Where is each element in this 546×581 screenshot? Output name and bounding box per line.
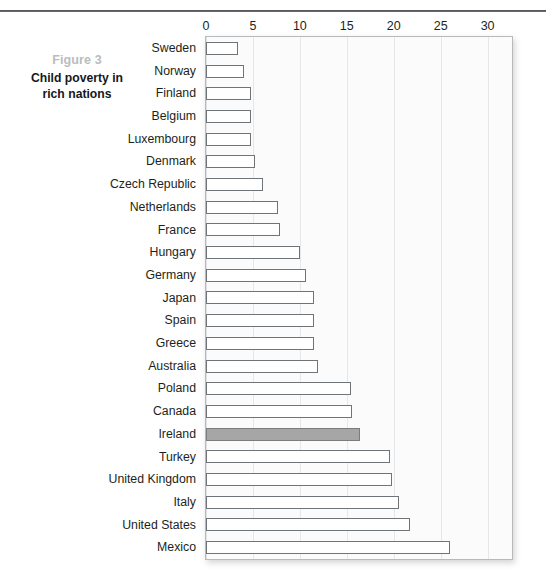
x-tick-label-30: 30 <box>468 19 508 33</box>
category-label-australia: Australia <box>16 355 196 378</box>
bar-row: Sweden <box>0 37 546 60</box>
x-tick-label-10: 10 <box>280 19 320 33</box>
bar-canada <box>206 405 352 418</box>
bar-belgium <box>206 110 251 123</box>
bar-row: Czech Republic <box>0 173 546 196</box>
category-label-belgium: Belgium <box>16 105 196 128</box>
category-label-denmark: Denmark <box>16 150 196 173</box>
bar-row: Canada <box>0 400 546 423</box>
bar-row: Italy <box>0 491 546 514</box>
bar-united-kingdom <box>206 473 392 486</box>
bar-finland <box>206 87 251 100</box>
bar-row: United States <box>0 514 546 537</box>
x-tick-label-15: 15 <box>327 19 367 33</box>
bar-row: United Kingdom <box>0 468 546 491</box>
category-label-mexico: Mexico <box>16 536 196 559</box>
x-tick-label-25: 25 <box>421 19 461 33</box>
bar-spain <box>206 314 314 327</box>
bar-sweden <box>206 42 238 55</box>
category-label-turkey: Turkey <box>16 446 196 469</box>
bar-row: Hungary <box>0 241 546 264</box>
bar-row: Australia <box>0 355 546 378</box>
category-label-hungary: Hungary <box>16 241 196 264</box>
bar-japan <box>206 291 314 304</box>
bar-greece <box>206 337 314 350</box>
bar-hungary <box>206 246 300 259</box>
bar-poland <box>206 382 351 395</box>
bar-united-states <box>206 518 410 531</box>
bar-france <box>206 223 280 236</box>
category-label-norway: Norway <box>16 60 196 83</box>
bar-row: Belgium <box>0 105 546 128</box>
bar-australia <box>206 360 318 373</box>
bar-czech-republic <box>206 178 263 191</box>
category-label-czech-republic: Czech Republic <box>16 173 196 196</box>
x-tick-label-20: 20 <box>374 19 414 33</box>
category-label-luxembourg: Luxembourg <box>16 128 196 151</box>
bar-row: Ireland <box>0 423 546 446</box>
category-label-germany: Germany <box>16 264 196 287</box>
category-label-france: France <box>16 219 196 242</box>
category-label-canada: Canada <box>16 400 196 423</box>
category-label-poland: Poland <box>16 377 196 400</box>
bar-row: Netherlands <box>0 196 546 219</box>
bar-norway <box>206 65 244 78</box>
category-label-finland: Finland <box>16 82 196 105</box>
bar-turkey <box>206 450 390 463</box>
figure-root: Figure 3 Child poverty in rich nations 0… <box>0 0 546 581</box>
category-label-netherlands: Netherlands <box>16 196 196 219</box>
bar-germany <box>206 269 306 282</box>
category-label-ireland: Ireland <box>16 423 196 446</box>
bar-row: Spain <box>0 309 546 332</box>
category-label-greece: Greece <box>16 332 196 355</box>
bar-netherlands <box>206 201 278 214</box>
bar-row: France <box>0 219 546 242</box>
category-label-italy: Italy <box>16 491 196 514</box>
bar-row: Luxembourg <box>0 128 546 151</box>
bar-row: Denmark <box>0 150 546 173</box>
category-label-spain: Spain <box>16 309 196 332</box>
bar-mexico <box>206 541 450 554</box>
bar-chart: 051015202530 SwedenNorwayFinlandBelgiumL… <box>0 0 546 581</box>
bar-italy <box>206 496 399 509</box>
bar-row: Poland <box>0 377 546 400</box>
bar-row: Germany <box>0 264 546 287</box>
bar-row: Mexico <box>0 536 546 559</box>
bar-ireland <box>206 428 360 441</box>
x-tick-label-0: 0 <box>186 19 226 33</box>
bar-row: Finland <box>0 82 546 105</box>
bar-row: Greece <box>0 332 546 355</box>
category-label-japan: Japan <box>16 287 196 310</box>
x-tick-label-5: 5 <box>233 19 273 33</box>
bar-denmark <box>206 155 255 168</box>
bar-row: Turkey <box>0 446 546 469</box>
bar-luxembourg <box>206 133 251 146</box>
category-label-united-kingdom: United Kingdom <box>16 468 196 491</box>
category-label-sweden: Sweden <box>16 37 196 60</box>
category-label-united-states: United States <box>16 514 196 537</box>
bar-row: Norway <box>0 60 546 83</box>
bar-row: Japan <box>0 287 546 310</box>
